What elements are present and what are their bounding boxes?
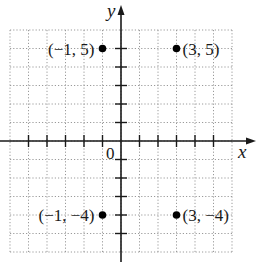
point-marker-icon [173, 211, 181, 219]
point-label: (3, 5) [183, 40, 220, 59]
data-points: (−1, 5)(3, 5)(−1, −4)(3, −4) [39, 40, 229, 226]
point-label: (−1, 5) [48, 40, 94, 59]
data-point: (3, 5) [173, 40, 220, 59]
y-axis-label: y [105, 0, 116, 21]
point-label: (3, −4) [183, 206, 229, 225]
point-label: (−1, −4) [39, 206, 95, 225]
point-marker-icon [99, 211, 107, 219]
x-axis-label: x [237, 141, 247, 162]
origin-label: 0 [106, 144, 115, 163]
y-axis-arrow-icon [118, 5, 125, 15]
point-marker-icon [173, 45, 181, 53]
data-point: (3, −4) [173, 206, 229, 225]
x-axis-arrow-icon [246, 138, 256, 145]
point-marker-icon [99, 45, 107, 53]
data-point: (−1, −4) [39, 206, 107, 225]
coordinate-plane: (−1, 5)(3, 5)(−1, −4)(3, −4) x y 0 [0, 0, 259, 265]
